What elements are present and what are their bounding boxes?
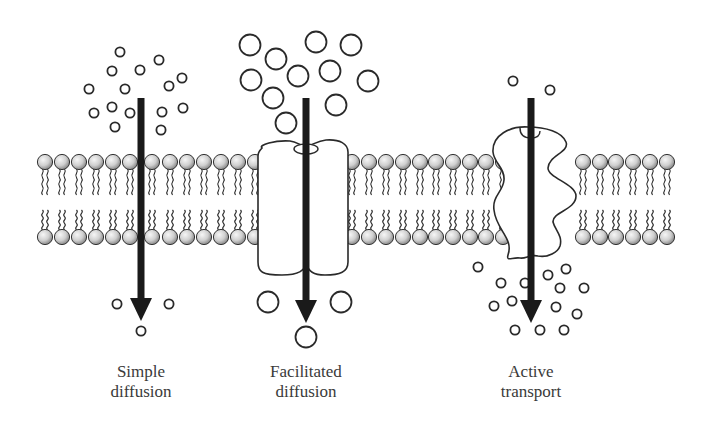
small-molecule (551, 302, 560, 311)
small-molecule (89, 108, 98, 117)
phospholipid (378, 154, 393, 244)
small-molecule (561, 264, 570, 273)
label-line: diffusion (71, 382, 211, 402)
phospholipid (37, 154, 52, 244)
small-molecule (543, 270, 552, 279)
small-molecule (508, 76, 517, 85)
small-molecule (559, 325, 568, 334)
phospholipid (122, 154, 137, 244)
small-molecule (135, 65, 144, 74)
small-molecule (156, 125, 165, 134)
phospholipid (230, 154, 245, 244)
small-molecule (535, 325, 544, 334)
small-molecule (107, 102, 116, 111)
small-molecule (572, 309, 581, 318)
phospholipid (592, 154, 607, 244)
phospholipid (71, 154, 86, 244)
small-molecule (110, 122, 119, 131)
arrow-simple-diffusion (130, 98, 152, 321)
phospholipid (642, 154, 657, 244)
label-line: Active (461, 362, 601, 382)
small-molecule (178, 103, 187, 112)
phospholipid (196, 154, 211, 244)
large-molecule (358, 71, 379, 92)
label-facilitated-diffusion: Facilitated diffusion (236, 362, 376, 402)
label-line: diffusion (236, 382, 376, 402)
small-molecule (112, 299, 121, 308)
large-molecule (341, 35, 362, 56)
small-molecule (473, 262, 482, 271)
small-molecule (555, 283, 564, 292)
small-molecule (136, 326, 145, 335)
phospholipid (213, 154, 228, 244)
phospholipid-bilayer (37, 154, 674, 244)
small-molecule (177, 73, 186, 82)
phospholipid (54, 154, 69, 244)
phospholipid (144, 154, 159, 244)
label-line: Facilitated (236, 362, 376, 382)
large-molecule (276, 113, 297, 134)
phospholipid (361, 154, 376, 244)
phospholipid (625, 154, 640, 244)
small-molecule (84, 84, 93, 93)
small-molecule (496, 278, 505, 287)
small-molecule (489, 301, 498, 310)
small-molecule (125, 108, 134, 117)
phospholipid (179, 154, 194, 244)
phospholipid (608, 154, 623, 244)
large-molecule (263, 88, 284, 109)
small-molecule (545, 85, 554, 94)
large-molecule (331, 292, 352, 313)
large-molecule (240, 35, 261, 56)
label-simple-diffusion: Simple diffusion (71, 362, 211, 402)
phospholipid (445, 154, 460, 244)
phospholipid (428, 154, 443, 244)
phospholipid (162, 154, 177, 244)
small-molecule (164, 81, 173, 90)
large-molecule (306, 32, 327, 53)
small-molecule (507, 296, 516, 305)
phospholipid (88, 154, 103, 244)
label-line: Simple (71, 362, 211, 382)
small-molecule (579, 283, 588, 292)
small-molecule (510, 325, 519, 334)
large-molecule (288, 66, 309, 87)
small-molecule (115, 47, 124, 56)
large-molecule (266, 49, 287, 70)
phospholipid (478, 154, 493, 244)
large-molecule (296, 327, 317, 348)
small-molecule (164, 299, 173, 308)
label-line: transport (461, 382, 601, 402)
large-molecule (241, 70, 262, 91)
label-active-transport: Active transport (461, 362, 601, 402)
phospholipid (575, 154, 590, 244)
phospholipid (412, 154, 427, 244)
phospholipid (105, 154, 120, 244)
small-molecule (107, 66, 116, 75)
phospholipid (659, 154, 674, 244)
small-molecule (154, 55, 163, 64)
large-molecule (326, 95, 347, 116)
large-molecule (320, 61, 341, 82)
small-molecule (120, 84, 129, 93)
large-molecule (258, 292, 279, 313)
small-molecule (157, 107, 166, 116)
phospholipid (395, 154, 410, 244)
phospholipid (462, 154, 477, 244)
